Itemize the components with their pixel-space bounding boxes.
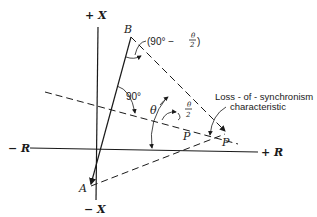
complement-angle-suffix: ): [197, 36, 200, 47]
annotation-arrow: [210, 107, 226, 135]
right-angle-label: 90°: [126, 91, 141, 102]
complement-angle-den: 2: [189, 41, 195, 49]
point-p-label: P: [182, 130, 191, 143]
theta-label: θ: [150, 104, 157, 117]
pos-r-label: + R: [261, 146, 283, 159]
line-ap: [91, 134, 225, 186]
point-a-label: A: [78, 182, 87, 195]
neg-x-label: − X: [84, 203, 106, 216]
line-bp: [131, 37, 225, 131]
complement-angle-prefix: (90° −: [147, 36, 174, 47]
complement-angle-num: θ: [191, 32, 196, 40]
half-theta-leader: [178, 113, 180, 120]
loss-of-sync-line: [45, 92, 238, 144]
point-b-label: B: [123, 23, 132, 36]
point-p-label-2: P: [221, 136, 230, 149]
annotation-line2: characteristic: [230, 101, 286, 112]
half-theta-num: θ: [187, 101, 192, 109]
theta-arc-top: [160, 97, 168, 105]
pos-x-label: + X: [85, 9, 107, 22]
complement-leader: [135, 41, 146, 55]
impedance-diagram: + X − X − R + R B A P P (90° − θ 2 ) 90°…: [0, 0, 317, 217]
neg-r-label: − R: [8, 142, 30, 155]
complement-angle-arc: [126, 56, 141, 58]
half-theta-arc: [162, 112, 176, 120]
x-axis: [96, 27, 98, 200]
half-theta-den: 2: [185, 111, 191, 119]
